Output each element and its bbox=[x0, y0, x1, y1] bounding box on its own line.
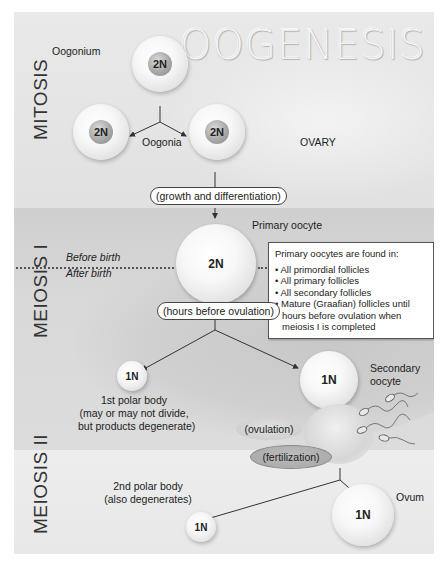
cell-oogonia-right: 2N bbox=[189, 104, 245, 160]
label-before-birth: Before birth bbox=[66, 251, 120, 263]
process-ovulation: (ovulation) bbox=[236, 418, 302, 440]
infobox-heading: Primary oocytes are found in: bbox=[275, 248, 427, 260]
infobox-item: All primary follicles bbox=[275, 275, 427, 287]
first-polar-line-2: (may or may not divide, bbox=[78, 407, 190, 420]
infobox-item: All secondary follicles bbox=[275, 287, 427, 299]
nucleus-primary-oocyte: 2N bbox=[208, 257, 223, 271]
nucleus-oogonia-right: 2N bbox=[205, 120, 229, 144]
process-fertilization: (fertilization) bbox=[250, 445, 332, 469]
first-polar-line-3: but products degenerate) bbox=[78, 420, 190, 433]
second-polar-line-1: 2nd polar body bbox=[98, 480, 198, 493]
oogenesis-diagram: OOGENESIS MITOSIS MEIOSIS I MEIOSIS II O… bbox=[14, 12, 434, 554]
cell-ovum: 1N bbox=[332, 484, 394, 546]
label-oogonia: Oogonia bbox=[142, 136, 182, 148]
nucleus-first-polar-body: 1N bbox=[126, 371, 139, 382]
cell-oogonia-left: 2N bbox=[73, 104, 129, 160]
label-after-birth: After birth bbox=[66, 267, 112, 279]
label-oogonium: Oogonium bbox=[52, 45, 100, 57]
infobox-item: All primordial follicles bbox=[275, 264, 427, 276]
label-primary-oocyte: Primary oocyte bbox=[252, 219, 322, 231]
nucleus-ovum: 1N bbox=[355, 508, 370, 522]
process-hours-before-ovulation: (hours before ovulation) bbox=[157, 302, 280, 320]
infobox-item: Mature (Graafian) follicles until hours … bbox=[275, 298, 427, 333]
label-secondary-oocyte: Secondary oocyte bbox=[370, 362, 420, 388]
nucleus-secondary-oocyte: 1N bbox=[321, 373, 336, 387]
cell-primary-oocyte: 2N bbox=[176, 224, 256, 304]
cell-oogonium: 2N bbox=[132, 36, 188, 92]
cell-second-polar-body: 1N bbox=[186, 512, 216, 542]
primary-oocyte-infobox: Primary oocytes are found in: All primor… bbox=[268, 242, 434, 339]
label-ovum: Ovum bbox=[396, 491, 424, 503]
nucleus-second-polar-body: 1N bbox=[195, 522, 208, 533]
label-first-polar-body: 1st polar body (may or may not divide, b… bbox=[78, 394, 190, 433]
cell-secondary-oocyte: 1N bbox=[300, 351, 358, 409]
process-growth-differentiation: (growth and differentiation) bbox=[150, 187, 287, 205]
first-polar-line-1: 1st polar body bbox=[78, 394, 190, 407]
label-second-polar-body: 2nd polar body (also degenerates) bbox=[98, 480, 198, 506]
sperm-icon-group bbox=[354, 390, 434, 450]
secondary-oocyte-line-2: oocyte bbox=[370, 375, 420, 388]
cell-first-polar-body: 1N bbox=[117, 361, 147, 391]
label-ovary: OVARY bbox=[300, 136, 336, 148]
secondary-oocyte-line-1: Secondary bbox=[370, 362, 420, 375]
nucleus-oogonium: 2N bbox=[148, 52, 172, 76]
nucleus-oogonia-left: 2N bbox=[89, 120, 113, 144]
second-polar-line-2: (also degenerates) bbox=[98, 493, 198, 506]
infobox-list: All primordial follicles All primary fol… bbox=[275, 264, 427, 333]
